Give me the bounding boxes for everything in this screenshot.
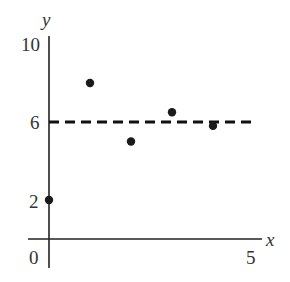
y-axis-label: y [40,9,51,30]
x-axis-label: x [265,229,275,250]
data-point [45,196,53,204]
data-point [127,137,135,145]
data-point [168,108,176,116]
y-tick-10: 10 [21,34,40,55]
y-tick-6: 6 [30,112,40,133]
y-tick-2: 2 [29,191,39,212]
data-points [45,79,217,204]
scatter-plot: y x 10 6 2 0 5 [0,0,290,282]
x-tick-0: 0 [29,247,39,268]
data-point [86,79,94,87]
data-point [209,122,217,130]
x-tick-5: 5 [246,247,256,268]
